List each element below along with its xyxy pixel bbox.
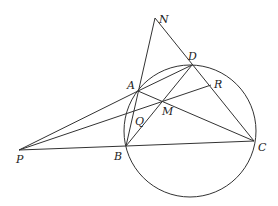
label-point-Q: Q (135, 115, 144, 128)
label-point-R: R (213, 78, 222, 91)
geometry-diagram: NDARMQBCP (0, 0, 278, 206)
label-point-C: C (258, 141, 267, 154)
label-point-B: B (113, 150, 122, 163)
label-point-N: N (158, 13, 169, 26)
label-point-A: A (126, 79, 135, 92)
label-point-M: M (161, 105, 174, 118)
segment-AC (138, 91, 254, 141)
segment-BC (126, 141, 254, 146)
segment-NC (155, 18, 254, 141)
segment-PA (19, 91, 138, 150)
label-point-D: D (187, 50, 197, 63)
circle (124, 65, 256, 197)
segment-PR (19, 85, 211, 150)
segment-BD (126, 65, 192, 146)
label-point-P: P (15, 153, 24, 166)
segment-AD (138, 65, 192, 91)
segment-PB (19, 146, 126, 150)
